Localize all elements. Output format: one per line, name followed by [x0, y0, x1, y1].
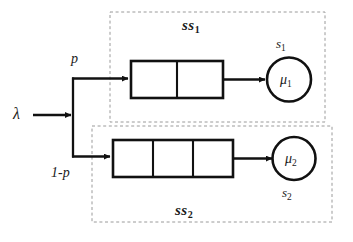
server-1-count-label: s1 — [276, 37, 286, 51]
subsystem-1-label: ss1 — [182, 18, 200, 33]
server-2-rate-label: μ2 — [285, 152, 297, 166]
arrival-rate-label: λ — [13, 106, 20, 122]
queue-2-box — [113, 140, 233, 177]
server-1-rate-label: μ1 — [280, 73, 292, 87]
split-probability-upper-label: p — [71, 52, 78, 66]
split-probability-lower-label: 1-p — [51, 166, 70, 180]
server-2-count-label: s2 — [282, 186, 292, 200]
diagram-canvas: ss1 ss2 λ p 1-p μ1 s1 μ2 s2 — [0, 0, 353, 242]
subsystem-2-label: ss2 — [175, 203, 193, 218]
